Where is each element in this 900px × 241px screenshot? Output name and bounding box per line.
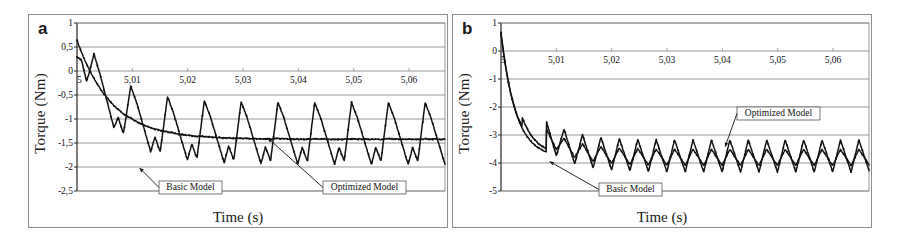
series-marker [858, 150, 860, 152]
series-marker [692, 149, 694, 151]
series-marker [575, 158, 577, 160]
series-marker [137, 107, 139, 109]
series-marker [202, 135, 204, 137]
series-marker [378, 138, 380, 140]
series-marker [572, 152, 574, 154]
series-marker [90, 71, 92, 73]
series-marker [96, 65, 98, 67]
series-marker [861, 149, 863, 151]
series-marker [347, 129, 349, 131]
series-marker [296, 138, 298, 140]
series-marker [317, 138, 319, 140]
series-marker [579, 147, 581, 149]
series-marker [527, 136, 529, 138]
x-tick-label: 5,04 [290, 75, 307, 85]
series-marker [368, 138, 370, 140]
y-tick-label: -2 [65, 162, 73, 172]
series-marker [422, 121, 424, 123]
series-marker [621, 144, 623, 146]
series-marker [141, 123, 143, 125]
series-marker [229, 137, 231, 139]
series-marker [205, 136, 207, 138]
series-marker [334, 139, 336, 141]
series-marker [504, 61, 506, 63]
series-marker [124, 127, 126, 129]
series-marker [560, 138, 562, 140]
series-marker [737, 164, 739, 166]
series-marker [164, 114, 166, 116]
series-marker [290, 139, 292, 141]
series-marker [538, 143, 540, 145]
series-marker [141, 118, 143, 120]
series-marker [263, 154, 265, 156]
series-marker [154, 129, 156, 131]
series-marker [696, 150, 698, 152]
series-marker [249, 138, 251, 140]
series-marker [161, 130, 163, 132]
series-marker [500, 32, 502, 34]
x-tick-label: 5,05 [345, 75, 362, 85]
series-marker [205, 104, 207, 106]
series-marker [225, 154, 227, 156]
series-marker [83, 69, 85, 71]
series-marker [147, 126, 149, 128]
series-marker [639, 152, 641, 154]
series-marker [113, 125, 115, 127]
series-marker [749, 150, 751, 152]
series-marker [560, 142, 562, 144]
series-marker [579, 143, 581, 145]
series-marker [280, 107, 282, 109]
series-marker [320, 118, 322, 120]
series-marker [534, 139, 536, 141]
series-marker [628, 162, 630, 164]
series-marker [86, 65, 88, 67]
x-tick-label: 5 [77, 75, 82, 85]
plot-area-a: 10,50-0,5-1-1,5-2-2,555,015,025,035,045,… [55, 15, 447, 227]
series-marker [598, 145, 600, 147]
series-marker [782, 147, 784, 149]
series-marker [590, 161, 592, 163]
series-marker [632, 158, 634, 160]
series-marker [854, 157, 856, 159]
figure-container: a Torque (Nm) 10,50-0,5-1-1,5-2-2,555,01… [0, 0, 900, 241]
series-marker [700, 160, 702, 162]
series-marker [147, 142, 149, 144]
series-marker [113, 105, 115, 107]
series-marker [337, 151, 339, 153]
series-line-basic-model [501, 33, 869, 173]
series-marker [195, 135, 197, 137]
series-marker [677, 153, 679, 155]
series-marker [681, 159, 683, 161]
series-marker [259, 138, 261, 140]
series-marker [647, 163, 649, 165]
series-marker [178, 134, 180, 136]
callout-optimized-model-a: Optimized Model [268, 138, 406, 194]
series-marker [442, 138, 444, 140]
series-marker [263, 138, 265, 140]
series-marker [813, 164, 815, 166]
series-marker [786, 151, 788, 153]
series-marker [606, 155, 608, 157]
series-marker [609, 165, 611, 167]
series-marker [715, 155, 717, 157]
series-marker [534, 144, 536, 146]
series-marker [178, 130, 180, 132]
series-marker [790, 157, 792, 159]
series-marker [756, 165, 758, 167]
series-marker [246, 115, 248, 117]
series-marker [658, 148, 660, 150]
series-marker [542, 145, 544, 147]
series-marker [357, 120, 359, 122]
series-marker [658, 152, 660, 154]
series-marker [398, 138, 400, 140]
y-tick-label: 0 [68, 66, 73, 76]
series-marker [711, 149, 713, 151]
series-marker [767, 143, 769, 145]
series-marker [839, 142, 841, 144]
series-marker [688, 157, 690, 159]
series-marker [583, 138, 585, 140]
series-marker [368, 154, 370, 156]
series-marker [239, 137, 241, 139]
series-marker [843, 148, 845, 150]
series-marker [164, 131, 166, 133]
